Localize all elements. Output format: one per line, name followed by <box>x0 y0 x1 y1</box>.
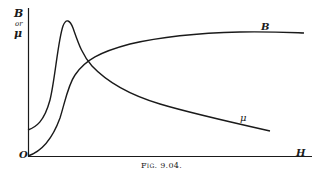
curve-label-b: B <box>261 22 269 32</box>
mu-curve <box>28 21 270 131</box>
curve-label-mu: μ <box>240 113 247 123</box>
x-axis-label-h: H <box>296 148 305 158</box>
figure-caption: Fig. 9.04. <box>0 161 323 170</box>
bh-mu-curve-figure <box>0 0 323 176</box>
y-axis-label-b: B <box>14 8 23 19</box>
y-axis-label-mu: μ <box>14 28 22 39</box>
origin-label: O <box>19 150 28 160</box>
b-curve <box>28 32 304 156</box>
